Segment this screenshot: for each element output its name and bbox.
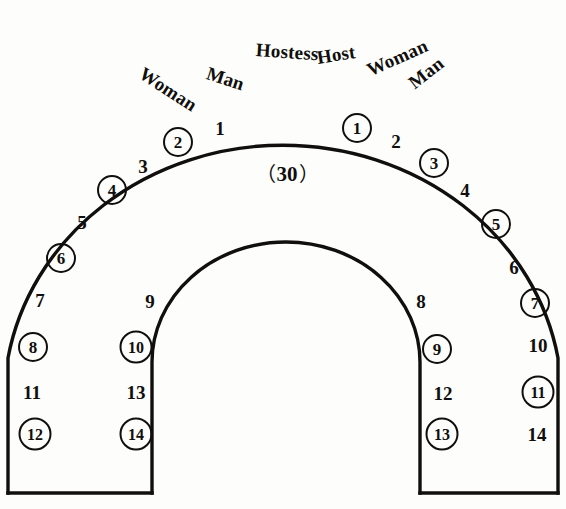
seat-marker-seat-left-8: 8 (18, 332, 48, 362)
seating-chart-diagram: WomanManHostessHostWomanMan 123456789101… (0, 0, 566, 509)
capacity-paren-close: ） (298, 163, 320, 185)
seat-marker-seat-right-6: 6 (509, 258, 519, 277)
seat-marker-seat-right-10: 10 (529, 336, 548, 355)
role-label-hostess: Hostess (255, 39, 319, 65)
inner-table-edge (152, 242, 420, 493)
seat-marker-seat-right-3: 3 (419, 148, 449, 178)
seat-marker-seat-right-2: 2 (391, 132, 401, 151)
capacity-label: （30） (255, 158, 320, 187)
seat-marker-seat-right-7: 7 (520, 288, 550, 318)
horseshoe-table-outline (0, 0, 566, 509)
seat-marker-seat-right-5: 5 (481, 209, 511, 239)
seat-marker-seat-left-7: 7 (35, 291, 45, 310)
capacity-value: 30 (277, 162, 298, 186)
seat-marker-seat-left-12: 12 (19, 418, 52, 451)
seat-marker-seat-left-10: 10 (120, 331, 153, 364)
seat-marker-seat-left-4: 4 (97, 175, 127, 205)
seat-marker-seat-left-13: 13 (127, 383, 146, 402)
seat-marker-seat-left-6: 6 (46, 243, 76, 273)
seat-marker-seat-left-11: 11 (23, 383, 41, 402)
seat-marker-seat-right-1: 1 (342, 113, 372, 143)
seat-marker-seat-left-3: 3 (138, 157, 148, 176)
seat-marker-seat-right-4: 4 (460, 181, 470, 200)
seat-marker-seat-left-14: 14 (120, 418, 153, 451)
seat-marker-seat-left-9: 9 (145, 292, 155, 311)
seat-marker-seat-left-2: 2 (163, 127, 193, 157)
seat-marker-seat-right-9: 9 (422, 334, 452, 364)
seat-marker-seat-right-8: 8 (416, 292, 426, 311)
seat-marker-seat-right-14: 14 (528, 425, 547, 444)
seat-marker-seat-right-11: 11 (522, 376, 555, 409)
seat-marker-seat-left-5: 5 (77, 213, 87, 232)
seat-marker-seat-right-13: 13 (426, 418, 459, 451)
seat-marker-seat-right-12: 12 (434, 384, 453, 403)
seat-marker-seat-left-1: 1 (215, 119, 225, 138)
capacity-paren-open: （ (255, 163, 277, 185)
outer-table-edge (8, 145, 558, 493)
